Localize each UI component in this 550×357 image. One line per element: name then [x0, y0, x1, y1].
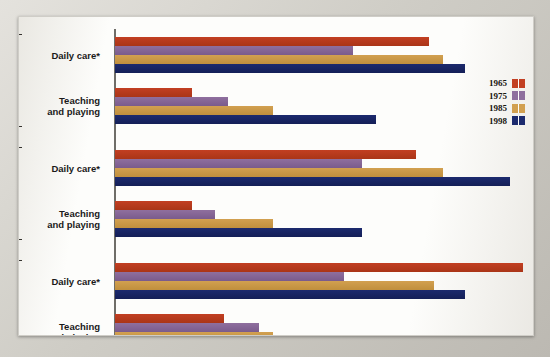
category-label-line: Daily care*	[22, 50, 100, 61]
category-label: Teachingand playing	[22, 95, 100, 117]
category-label-line: Teaching	[22, 95, 100, 106]
legend-label: 1975	[489, 91, 507, 101]
category-label-line: Teaching	[22, 208, 100, 219]
bar-1965	[115, 37, 429, 46]
bar-1975	[115, 272, 344, 281]
chart-legend: 1965197519851998	[463, 77, 525, 127]
category-label-line: and playing	[22, 106, 100, 117]
legend-swatch-1975	[512, 91, 525, 100]
bar-1998	[115, 115, 376, 124]
legend-label: 1998	[489, 116, 507, 126]
legend-item-1985: 1985	[463, 102, 525, 115]
bar-1965	[115, 314, 224, 323]
group-brace	[18, 260, 22, 336]
bar-1975	[115, 210, 215, 219]
bar-1998	[115, 177, 510, 186]
bar-1975	[115, 323, 259, 332]
bar-1985	[115, 106, 273, 115]
legend-item-1998: 1998	[463, 115, 525, 128]
category-label-line: and playing	[22, 332, 100, 336]
bar-1975	[115, 46, 353, 55]
category-label-line: Daily care*	[22, 163, 100, 174]
category-label-line: Daily care*	[22, 276, 100, 287]
legend-label: 1985	[489, 103, 507, 113]
bar-1998	[115, 228, 362, 237]
legend-swatch-1998	[512, 116, 525, 125]
bar-1965	[115, 150, 416, 159]
category-label: Daily care*	[22, 50, 100, 61]
chart-card: // 3035404550556065707580859095100105110…	[18, 16, 534, 336]
category-label: Daily care*	[22, 276, 100, 287]
group-brace	[18, 34, 22, 127]
group-brace	[18, 147, 22, 240]
legend-swatch-1985	[512, 104, 525, 113]
bar-1965	[115, 263, 523, 272]
category-label: Daily care*	[22, 163, 100, 174]
bar-1975	[115, 159, 362, 168]
bar-1975	[115, 97, 228, 106]
legend-item-1975: 1975	[463, 90, 525, 103]
bar-chart-plot-area: // 3035404550556065707580859095100105110…	[114, 25, 533, 336]
legend-label: 1965	[489, 78, 507, 88]
bar-1985	[115, 168, 443, 177]
bar-1985	[115, 281, 434, 290]
bar-1965	[115, 201, 192, 210]
bar-1985	[115, 332, 273, 336]
bar-1985	[115, 55, 443, 64]
category-label-line: Teaching	[22, 321, 100, 332]
category-label-line: and playing	[22, 219, 100, 230]
bar-1998	[115, 64, 465, 73]
bar-1985	[115, 219, 273, 228]
bar-1965	[115, 88, 192, 97]
legend-item-1965: 1965	[463, 77, 525, 90]
category-label: Teachingand playing	[22, 208, 100, 230]
legend-swatch-1965	[512, 79, 525, 88]
category-label: Teachingand playing	[22, 321, 100, 336]
bar-1998	[115, 290, 465, 299]
screenshot-page: // 3035404550556065707580859095100105110…	[0, 0, 550, 357]
